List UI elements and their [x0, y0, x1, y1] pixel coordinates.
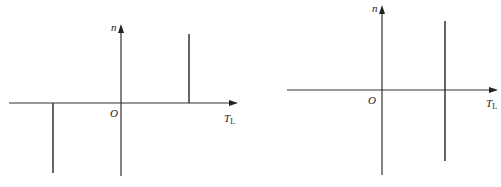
right-y-axis-arrow-icon — [379, 5, 385, 14]
right-x-axis-label-sub: L — [492, 102, 497, 111]
right-origin-label: O — [368, 94, 376, 106]
right-x-axis-arrow-icon — [489, 87, 498, 93]
right-x-axis-label: TL — [486, 97, 497, 111]
left-x-axis-arrow-icon — [229, 100, 238, 106]
left-x-axis-label-sub: L — [230, 117, 235, 126]
left-origin-label: O — [110, 107, 118, 119]
left-y-axis-arrow-icon — [118, 24, 124, 33]
right-y-axis-label: n — [372, 2, 378, 14]
left-y-axis-label: n — [111, 21, 117, 33]
left-diagram: n O TL — [9, 21, 238, 176]
left-x-axis-label: TL — [224, 112, 235, 126]
right-diagram: n O TL — [287, 2, 498, 175]
figure-canvas: n O TL n O TL — [0, 0, 501, 187]
